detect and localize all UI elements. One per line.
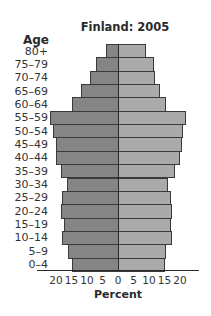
x-tick-label: 20 bbox=[48, 274, 64, 286]
bar-left bbox=[81, 84, 118, 98]
age-label: 15–19 bbox=[0, 218, 48, 231]
bar-right bbox=[118, 97, 166, 111]
bar-left bbox=[106, 44, 118, 58]
age-label: 10–14 bbox=[0, 231, 48, 244]
age-label: 45–49 bbox=[0, 138, 48, 151]
x-tick-label: 5 bbox=[126, 274, 142, 286]
bar-right bbox=[118, 111, 186, 125]
center-axis-line bbox=[118, 44, 119, 271]
bar-left bbox=[56, 151, 118, 165]
x-tick-label: 15 bbox=[64, 274, 80, 286]
bar-right bbox=[118, 204, 172, 218]
bar-right bbox=[118, 137, 182, 151]
age-label: 25–29 bbox=[0, 191, 48, 204]
x-tick-label: 5 bbox=[95, 274, 111, 286]
bar-left bbox=[67, 178, 118, 192]
age-label: 30–34 bbox=[0, 178, 48, 191]
chart-title: Finland: 2005 bbox=[70, 20, 180, 34]
x-tick-label: 10 bbox=[79, 274, 95, 286]
bar-left bbox=[61, 204, 118, 218]
age-label: 60–64 bbox=[0, 98, 48, 111]
bar-left bbox=[50, 111, 118, 125]
x-tick-label: 15 bbox=[157, 274, 173, 286]
bar-right bbox=[118, 44, 146, 58]
bar-left bbox=[61, 164, 118, 178]
bar-right bbox=[118, 71, 155, 85]
bar-right bbox=[118, 178, 168, 192]
x-axis-title: Percent bbox=[88, 288, 148, 301]
bar-left bbox=[62, 191, 118, 205]
age-label: 20–24 bbox=[0, 205, 48, 218]
bar-left bbox=[96, 57, 118, 71]
bar-left bbox=[68, 244, 118, 258]
bar-right bbox=[118, 151, 180, 165]
bar-left bbox=[90, 71, 118, 85]
age-label: 5–9 bbox=[0, 245, 48, 258]
bar-left bbox=[64, 218, 118, 232]
bar-right bbox=[118, 218, 171, 232]
x-tick-label: 10 bbox=[141, 274, 157, 286]
age-label: 50–54 bbox=[0, 125, 48, 138]
bar-right bbox=[118, 57, 154, 71]
x-tick-label: 20 bbox=[172, 274, 188, 286]
bar-right bbox=[118, 84, 160, 98]
bar-right bbox=[118, 231, 172, 245]
age-label: 35–39 bbox=[0, 165, 48, 178]
x-tick-label: 0 bbox=[110, 274, 126, 286]
bar-left bbox=[56, 137, 118, 151]
age-label: 80+ bbox=[0, 45, 48, 58]
age-label: 70–74 bbox=[0, 71, 48, 84]
bar-right bbox=[118, 244, 166, 258]
bar-left bbox=[72, 97, 119, 111]
age-label: 75–79 bbox=[0, 58, 48, 71]
bar-right bbox=[118, 164, 175, 178]
x-axis-line bbox=[37, 270, 199, 271]
bar-right bbox=[118, 124, 183, 138]
bar-left bbox=[53, 124, 118, 138]
age-label: 55–59 bbox=[0, 111, 48, 124]
bar-right bbox=[118, 191, 171, 205]
age-label: 65–69 bbox=[0, 85, 48, 98]
age-label: 40–44 bbox=[0, 151, 48, 164]
bar-left bbox=[62, 231, 118, 245]
